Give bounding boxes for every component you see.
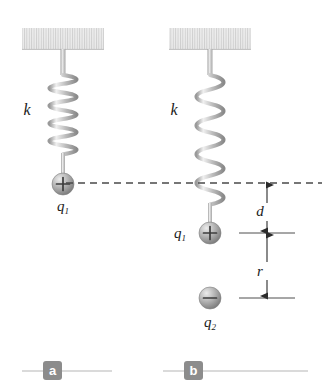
dimension-d: d bbox=[239, 185, 295, 233]
panel-a: k q1 bbox=[22, 28, 104, 216]
upper-rod-b bbox=[208, 49, 213, 75]
dimension-r: r bbox=[239, 235, 295, 298]
spring-coils-a bbox=[50, 75, 77, 154]
charge-q1-a bbox=[52, 173, 74, 195]
dimension-r-label: r bbox=[257, 263, 263, 279]
charge-label-q1-b: q1 bbox=[174, 225, 186, 243]
ceiling-hatching-b bbox=[169, 28, 251, 49]
ceiling-hatching-a bbox=[22, 28, 104, 49]
charge-q2-b bbox=[199, 287, 221, 309]
caption-letter-b: b bbox=[190, 363, 198, 378]
panel-caption-a: a bbox=[22, 361, 112, 380]
upper-rod-a bbox=[61, 49, 66, 75]
spring-coils-b bbox=[197, 75, 224, 205]
panel-caption-b: b bbox=[163, 361, 308, 380]
charge-label-q1-a: q1 bbox=[57, 198, 69, 216]
spring-constant-label-b: k bbox=[170, 101, 178, 118]
spring-a bbox=[50, 75, 77, 154]
charge-q1-b bbox=[199, 222, 221, 244]
ceiling-support-b bbox=[169, 28, 251, 49]
dimension-d-label: d bbox=[256, 203, 264, 219]
lower-rod-a bbox=[61, 153, 65, 175]
spring-constant-label-a: k bbox=[23, 101, 31, 118]
physics-figure: k q1 k bbox=[0, 0, 329, 389]
ceiling-support-a bbox=[22, 28, 104, 49]
panel-b: k q1 q2 d bbox=[169, 28, 295, 332]
lower-rod-b bbox=[208, 203, 212, 225]
spring-b bbox=[197, 75, 224, 205]
figure-canvas: k q1 k bbox=[0, 0, 329, 389]
caption-letter-a: a bbox=[49, 363, 57, 378]
charge-label-q2-b: q2 bbox=[204, 314, 217, 332]
